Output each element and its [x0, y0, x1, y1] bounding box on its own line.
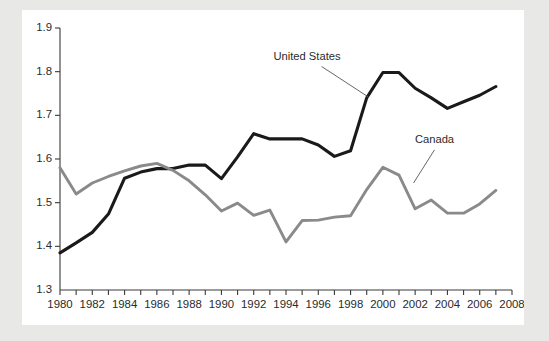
y-tick-label: 1.8: [36, 65, 52, 77]
y-tick-label: 1.9: [36, 21, 52, 33]
line-chart: 1.31.41.51.61.71.81.91980198219841986198…: [22, 10, 524, 325]
x-tick-label: 1994: [273, 298, 298, 310]
y-tick-label: 1.4: [36, 239, 52, 251]
x-tick-label: 1996: [306, 298, 331, 310]
x-tick-label: 1986: [144, 298, 169, 310]
x-tick-label: 1982: [80, 298, 105, 310]
x-tick-label: 1984: [112, 298, 137, 310]
leader-line-united-states: [322, 66, 369, 97]
y-tick-label: 1.3: [36, 283, 52, 295]
x-tick-label: 2004: [435, 298, 460, 310]
y-tick-label: 1.7: [36, 108, 52, 120]
x-tick-label: 2006: [467, 298, 492, 310]
series-label-canada: Canada: [415, 133, 455, 145]
y-tick-label: 1.5: [36, 196, 52, 208]
x-tick-label: 1980: [47, 298, 72, 310]
x-tick-label: 2000: [370, 298, 395, 310]
leader-line-canada: [414, 150, 435, 183]
x-tick-label: 1998: [338, 298, 363, 310]
series-line-canada: [60, 163, 496, 242]
chart-card: 1.31.41.51.61.71.81.91980198219841986198…: [22, 10, 524, 325]
series-label-united-states: United States: [273, 50, 341, 62]
x-tick-label: 2002: [402, 298, 427, 310]
y-tick-label: 1.6: [36, 152, 52, 164]
x-tick-label: 2008: [499, 298, 524, 310]
x-tick-label: 1992: [241, 298, 266, 310]
x-tick-label: 1988: [176, 298, 201, 310]
x-tick-label: 1990: [209, 298, 234, 310]
